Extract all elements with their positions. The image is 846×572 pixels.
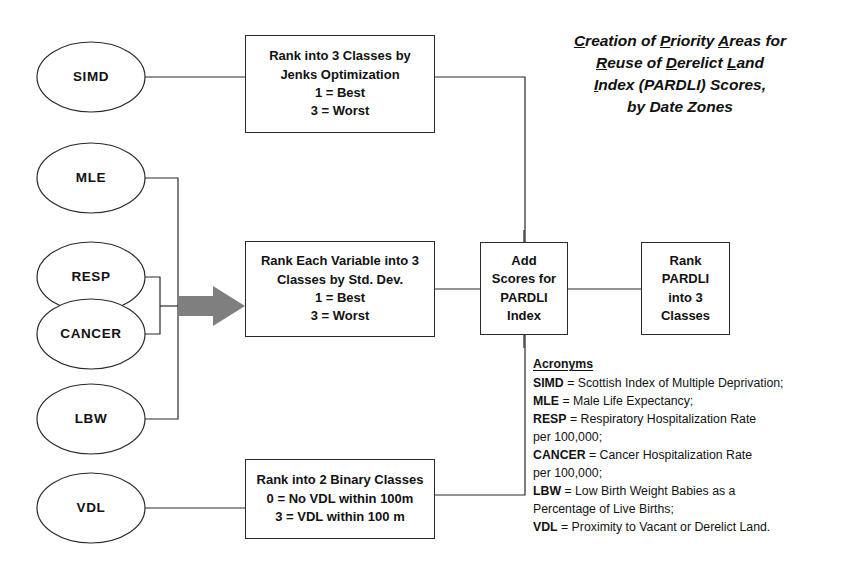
- box-line: Scores for: [492, 270, 556, 288]
- ellipse-label-simd: SIMD: [37, 70, 145, 84]
- ellipse-label-cancer: CANCER: [37, 327, 145, 341]
- box-rank-jenks[interactable]: Rank into 3 Classes by Jenks Optimizatio…: [245, 35, 435, 133]
- title-line: Reuse of Derelict Land: [530, 52, 830, 74]
- box-line: Index: [507, 307, 541, 325]
- legend-abbr: SIMD: [533, 376, 564, 390]
- box-line: Jenks Optimization: [280, 66, 399, 84]
- box-line: Rank into 2 Binary Classes: [257, 471, 424, 489]
- box-line: Rank: [670, 252, 702, 270]
- connector-resp-cancer-bracket: [145, 277, 160, 334]
- legend-abbr: RESP: [533, 412, 567, 426]
- box-line: 3 = Worst: [311, 102, 370, 120]
- legend-entry-continuation: per 100,000;: [533, 429, 833, 447]
- box-line: Classes: [661, 307, 710, 325]
- title-line: by Date Zones: [530, 96, 830, 118]
- box-line: 3 = VDL within 100 m: [275, 508, 404, 526]
- connector-mle-lbw-bracket: [145, 178, 178, 419]
- box-line: 1 = Best: [315, 289, 365, 307]
- connector-binary-to-add: [435, 335, 525, 495]
- legend-entry: CANCER = Cancer Hospitalization Rate: [533, 447, 833, 465]
- ellipse-label-vdl: VDL: [37, 501, 145, 515]
- box-line: Rank into 3 Classes by: [269, 47, 411, 65]
- legend-entry: SIMD = Scottish Index of Multiple Depriv…: [533, 375, 833, 393]
- diagram-canvas: SIMD MLE RESP CANCER LBW VDL Rank into 3…: [0, 0, 846, 572]
- ellipse-label-lbw: LBW: [37, 412, 145, 426]
- legend-abbr: MLE: [533, 394, 559, 408]
- connector-jenks-to-add: [435, 77, 525, 242]
- legend-entry: VDL = Proximity to Vacant or Derelict La…: [533, 519, 833, 537]
- ellipse-label-mle: MLE: [37, 171, 145, 185]
- grey-arrow-icon: [178, 286, 245, 326]
- title-line: Index (PARDLI) Scores,: [530, 74, 830, 96]
- box-line: PARDLI: [500, 289, 547, 307]
- box-line: Classes by Std. Dev.: [277, 271, 403, 289]
- legend-entry: LBW = Low Birth Weight Babies as a: [533, 483, 833, 501]
- legend-heading: Acronyms: [533, 356, 833, 374]
- box-line: PARDLI: [662, 270, 709, 288]
- box-line: 3 = Worst: [311, 307, 370, 325]
- legend-abbr: LBW: [533, 484, 561, 498]
- title-line: Creation of Priority Areas for: [530, 30, 830, 52]
- box-line: Add: [511, 252, 536, 270]
- box-line: Rank Each Variable into 3: [261, 252, 419, 270]
- box-rank-pardli[interactable]: Rank PARDLI into 3 Classes: [641, 242, 730, 335]
- legend-abbr: CANCER: [533, 448, 586, 462]
- box-add-scores[interactable]: Add Scores for PARDLI Index: [480, 242, 568, 335]
- diagram-title: Creation of Priority Areas forReuse of D…: [530, 30, 830, 118]
- box-line: 0 = No VDL within 100m: [267, 490, 414, 508]
- legend-entry-continuation: Percentage of Live Births;: [533, 501, 833, 519]
- legend-rows: SIMD = Scottish Index of Multiple Depriv…: [533, 375, 833, 537]
- box-rank-stddev[interactable]: Rank Each Variable into 3 Classes by Std…: [245, 241, 435, 337]
- box-line: 1 = Best: [315, 84, 365, 102]
- legend-entry: RESP = Respiratory Hospitalization Rate: [533, 411, 833, 429]
- ellipse-label-resp: RESP: [37, 270, 145, 284]
- acronyms-legend: Acronyms SIMD = Scottish Index of Multip…: [533, 356, 833, 537]
- box-rank-binary[interactable]: Rank into 2 Binary Classes 0 = No VDL wi…: [245, 459, 435, 539]
- legend-abbr: VDL: [533, 520, 558, 534]
- legend-entry-continuation: per 100,000;: [533, 465, 833, 483]
- box-line: into 3: [668, 289, 703, 307]
- legend-entry: MLE = Male Life Expectancy;: [533, 393, 833, 411]
